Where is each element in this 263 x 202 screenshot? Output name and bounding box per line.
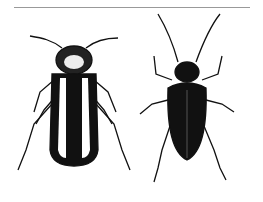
dark-beetle: [140, 14, 234, 182]
striped-beetle: [18, 36, 130, 170]
beetle-illustration: [0, 0, 263, 202]
